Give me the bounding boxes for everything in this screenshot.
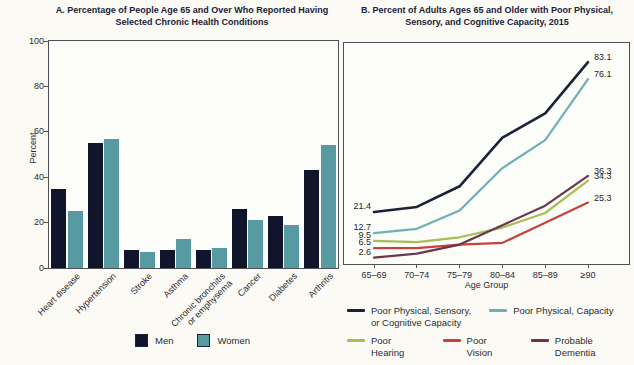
legend-label: Poor Physical, Capacity bbox=[513, 305, 613, 317]
legend-item-men: Men bbox=[135, 334, 173, 347]
x-tick-mark bbox=[459, 264, 460, 268]
figure-canvas: A. Percentage of People Age 65 and Over … bbox=[0, 0, 634, 365]
legend-label: Women bbox=[217, 335, 250, 346]
panel-b-x-axis-label: Age Group bbox=[344, 280, 629, 290]
y-tick-mark bbox=[44, 86, 48, 87]
bar-women bbox=[140, 252, 155, 268]
x-tick-label: ≥90 bbox=[566, 270, 610, 280]
legend-item-1: Poor Physical, Capacity bbox=[489, 305, 613, 317]
bar-women bbox=[284, 225, 299, 268]
bar-women bbox=[248, 220, 263, 268]
legend-item-women: Women bbox=[197, 334, 250, 347]
series-start-value: 21.4 bbox=[345, 202, 371, 211]
bar-women bbox=[212, 248, 227, 268]
bar-men bbox=[268, 216, 283, 268]
bar-men bbox=[304, 170, 319, 268]
legend-line-icon bbox=[489, 309, 507, 312]
x-tick-mark bbox=[545, 264, 546, 268]
bar-women bbox=[68, 211, 83, 268]
y-tick-mark bbox=[44, 177, 48, 178]
line-chart-svg bbox=[344, 43, 629, 264]
bar-men bbox=[160, 250, 175, 268]
x-tick-mark bbox=[502, 264, 503, 268]
y-tick-mark bbox=[44, 41, 48, 42]
panel-a-plot: Percent 020406080100Heart diseaseHyperte… bbox=[48, 40, 339, 269]
x-tick-mark bbox=[588, 264, 589, 268]
legend-item-4: Probable Dementia bbox=[531, 335, 633, 359]
y-tick-mark bbox=[44, 222, 48, 223]
bar-women bbox=[176, 239, 191, 269]
y-tick-label: 0 bbox=[21, 263, 44, 273]
y-tick-label: 80 bbox=[21, 81, 44, 91]
bar-men bbox=[51, 189, 66, 268]
panel-a-title: A. Percentage of People Age 65 and Over … bbox=[38, 5, 346, 28]
panel-a-legend: MenWomen bbox=[48, 334, 337, 347]
bar-men bbox=[88, 143, 103, 268]
x-tick-label: 65–69 bbox=[352, 270, 396, 280]
legend-swatch-icon bbox=[197, 334, 210, 347]
legend-row-1: Poor HearingPoor VisionProbable Dementia bbox=[347, 335, 633, 359]
legend-line-icon bbox=[347, 309, 365, 312]
series-end-value: 76.1 bbox=[594, 70, 612, 79]
x-tick-label: 85–89 bbox=[523, 270, 567, 280]
legend-label: Poor Physical, Sensory, or Cognitive Cap… bbox=[371, 305, 471, 329]
panel-b-title: B. Percent of Adults Ages 65 and Older w… bbox=[344, 5, 630, 28]
legend-item-2: Poor Hearing bbox=[347, 335, 425, 359]
legend-line-icon bbox=[347, 339, 365, 342]
series-end-value: 36.3 bbox=[594, 167, 612, 176]
series-start-value: 6.5 bbox=[345, 238, 371, 247]
x-tick-label: 80–84 bbox=[480, 270, 524, 280]
legend-item-0: Poor Physical, Sensory, or Cognitive Cap… bbox=[347, 305, 471, 329]
panel-b-plot: Age Group 21.483.112.776.19.534.36.525.3… bbox=[343, 42, 630, 265]
x-tick-label: 70–74 bbox=[395, 270, 439, 280]
y-tick-label: 100 bbox=[21, 36, 44, 46]
x-tick-mark bbox=[416, 264, 417, 268]
series-start-value: 2.6 bbox=[345, 248, 371, 257]
y-tick-label: 40 bbox=[21, 172, 44, 182]
series-end-value: 25.3 bbox=[594, 194, 612, 203]
bar-men bbox=[196, 250, 211, 268]
y-tick-label: 20 bbox=[21, 217, 44, 227]
legend-item-3: Poor Vision bbox=[443, 335, 513, 359]
legend-label: Poor Hearing bbox=[371, 335, 425, 359]
legend-swatch-icon bbox=[135, 334, 148, 347]
y-tick-mark bbox=[44, 268, 48, 269]
legend-label: Men bbox=[155, 335, 173, 346]
legend-label: Poor Vision bbox=[467, 335, 513, 359]
legend-line-icon bbox=[443, 339, 461, 342]
legend-label: Probable Dementia bbox=[555, 335, 633, 359]
bar-men bbox=[124, 250, 139, 268]
y-tick-label: 60 bbox=[21, 126, 44, 136]
series-end-value: 83.1 bbox=[594, 53, 612, 62]
bar-women bbox=[321, 145, 336, 268]
x-tick-label: 75–79 bbox=[438, 270, 482, 280]
legend-row-0: Poor Physical, Sensory, or Cognitive Cap… bbox=[347, 305, 633, 329]
x-tick-mark bbox=[374, 264, 375, 268]
panel-b-legend: Poor Physical, Sensory, or Cognitive Cap… bbox=[347, 305, 633, 365]
bar-women bbox=[104, 139, 119, 268]
legend-line-icon bbox=[531, 339, 549, 342]
y-tick-mark bbox=[44, 131, 48, 132]
bar-men bbox=[232, 209, 247, 268]
